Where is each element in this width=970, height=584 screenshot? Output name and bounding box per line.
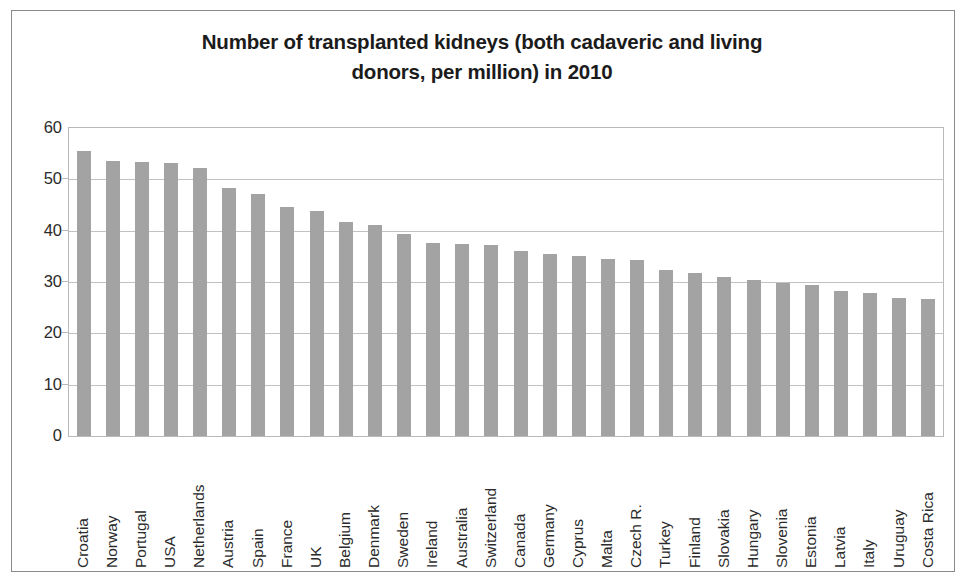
x-axis-label-slot: Canada: [505, 438, 534, 568]
x-axis-tick-label: Sweden: [395, 438, 411, 568]
chart-title-line-1: Number of transplanted kidneys (both cad…: [202, 30, 762, 53]
x-axis-label-slot: Czech R.: [622, 438, 651, 568]
bar-slot: [98, 128, 127, 436]
bar-slot: [593, 128, 622, 436]
bar[interactable]: [921, 299, 935, 436]
x-axis-tick-label: Latvia: [832, 438, 848, 568]
y-axis-tick-label: 0: [22, 426, 62, 445]
bar-slot: [156, 128, 185, 436]
x-axis-label-slot: Estonia: [796, 438, 825, 568]
bar-series: [69, 128, 943, 436]
x-axis-label-slot: Germany: [534, 438, 563, 568]
bar[interactable]: [164, 163, 178, 436]
x-axis-tick-label: Estonia: [803, 438, 819, 568]
x-axis-tick-label: Switzerland: [483, 438, 499, 568]
bar[interactable]: [747, 280, 761, 436]
x-axis-tick-label: Germany: [541, 438, 557, 568]
bar[interactable]: [572, 256, 586, 436]
x-axis-tick-label: UK: [308, 438, 324, 568]
x-axis-label-slot: Slovakia: [709, 438, 738, 568]
bar-slot: [885, 128, 914, 436]
bar[interactable]: [106, 161, 120, 436]
bar[interactable]: [863, 293, 877, 436]
y-axis-tick-label: 10: [22, 374, 62, 393]
bar[interactable]: [193, 168, 207, 436]
x-axis-label-slot: Ireland: [418, 438, 447, 568]
y-axis-tick-label: 60: [22, 118, 62, 137]
x-axis-tick-label: Uruguay: [891, 438, 907, 568]
x-axis-tick-label: Belgium: [337, 438, 353, 568]
x-axis-label-slot: Belgium: [330, 438, 359, 568]
x-axis-label-slot: Malta: [592, 438, 621, 568]
bar-slot: [448, 128, 477, 436]
bar-slot: [244, 128, 273, 436]
bar[interactable]: [484, 245, 498, 436]
bar[interactable]: [834, 291, 848, 436]
bar[interactable]: [251, 194, 265, 436]
bar[interactable]: [368, 225, 382, 436]
bar[interactable]: [77, 151, 91, 436]
x-axis-label-slot: Portugal: [126, 438, 155, 568]
x-axis-label-slot: France: [272, 438, 301, 568]
bar[interactable]: [601, 259, 615, 436]
bar[interactable]: [717, 277, 731, 436]
bar-slot: [652, 128, 681, 436]
x-axis-label-slot: Slovenia: [767, 438, 796, 568]
bar-slot: [186, 128, 215, 436]
bar-slot: [331, 128, 360, 436]
bar-slot: [419, 128, 448, 436]
bar-slot: [564, 128, 593, 436]
x-axis-label-slot: Denmark: [359, 438, 388, 568]
bar[interactable]: [455, 244, 469, 436]
chart-title-line-2: donors, per million) in 2010: [352, 60, 613, 83]
x-axis-tick-label: Malta: [599, 438, 615, 568]
y-axis-tick-label: 50: [22, 169, 62, 188]
x-axis-label-slot: Turkey: [651, 438, 680, 568]
bar-slot: [215, 128, 244, 436]
bar-slot: [797, 128, 826, 436]
x-axis-tick-label: Italy: [861, 438, 877, 568]
x-axis-label-slot: Norway: [97, 438, 126, 568]
x-axis-label-slot: Switzerland: [476, 438, 505, 568]
x-axis-tick-label: Finland: [687, 438, 703, 568]
x-axis-label-slot: Cyprus: [563, 438, 592, 568]
bar[interactable]: [543, 254, 557, 436]
bar-slot: [360, 128, 389, 436]
x-axis-tick-label: Austria: [220, 438, 236, 568]
y-axis: 0102030405060: [12, 127, 62, 435]
bar[interactable]: [892, 298, 906, 436]
x-axis-tick-label: Czech R.: [628, 438, 644, 568]
x-axis-tick-label: Cyprus: [570, 438, 586, 568]
x-axis-labels: CroatiaNorwayPortugalUSANetherlandsAustr…: [68, 438, 942, 568]
bar-slot: [623, 128, 652, 436]
bar[interactable]: [688, 273, 702, 436]
bar-slot: [127, 128, 156, 436]
x-axis-tick-label: Portugal: [133, 438, 149, 568]
x-axis-tick-label: Ireland: [424, 438, 440, 568]
y-axis-tick-label: 40: [22, 220, 62, 239]
plot-area: [68, 127, 944, 437]
bar[interactable]: [310, 211, 324, 436]
bar[interactable]: [222, 188, 236, 436]
bar[interactable]: [659, 270, 673, 436]
bar-slot: [535, 128, 564, 436]
x-axis-tick-label: Hungary: [745, 438, 761, 568]
bar-slot: [826, 128, 855, 436]
x-axis-label-slot: Australia: [447, 438, 476, 568]
bar-slot: [477, 128, 506, 436]
x-axis-tick-label: Turkey: [657, 438, 673, 568]
bar[interactable]: [280, 207, 294, 436]
bar[interactable]: [514, 251, 528, 436]
bar[interactable]: [135, 162, 149, 436]
bar-slot: [856, 128, 885, 436]
bar[interactable]: [805, 285, 819, 436]
x-axis-label-slot: Croatia: [68, 438, 97, 568]
bar[interactable]: [426, 243, 440, 436]
bar-slot: [69, 128, 98, 436]
bar[interactable]: [776, 283, 790, 436]
bar[interactable]: [339, 222, 353, 436]
bar-slot: [768, 128, 797, 436]
bar[interactable]: [397, 234, 411, 436]
x-axis-label-slot: USA: [155, 438, 184, 568]
bar[interactable]: [630, 260, 644, 436]
